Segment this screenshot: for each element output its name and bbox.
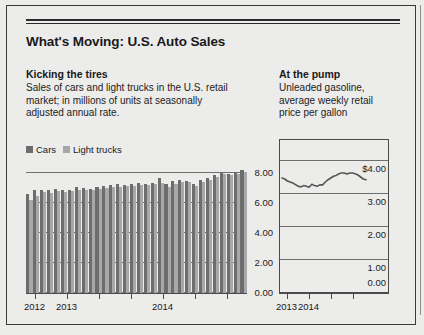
bar-group — [88, 158, 95, 293]
bar-y-tick-label: 0.00 — [253, 288, 274, 297]
bar-group — [157, 158, 164, 293]
bar-x-tick-label: 2013 — [56, 302, 77, 312]
line-x-tick-label: 2014 — [298, 302, 319, 312]
left-deck-line-2: market; in millions of units at seasonal… — [26, 95, 266, 108]
bar-group — [192, 158, 199, 293]
bar-group — [67, 158, 74, 293]
gas-price-line-series — [280, 140, 388, 292]
bar-y-tick-label: 6.00 — [253, 198, 274, 207]
bar-group — [233, 158, 240, 293]
bar-group — [143, 158, 150, 293]
bar-chart-y-axis: 0.002.004.006.008.00 — [247, 158, 273, 293]
bar-x-tick-label: 2014 — [152, 302, 173, 312]
bar-x-tick — [227, 294, 228, 299]
legend-swatch-cars-icon — [26, 146, 33, 153]
bar-group — [206, 158, 213, 293]
bar-group — [74, 158, 81, 293]
bar-group — [109, 158, 116, 293]
rule-thin — [26, 23, 400, 24]
bar-group — [102, 158, 109, 293]
bar-x-tick-label: 2012 — [24, 302, 45, 312]
right-edge-divider — [420, 5, 421, 315]
bar-group — [40, 158, 47, 293]
line-x-tick — [353, 294, 354, 299]
bar-group — [26, 158, 33, 293]
bar-x-tick — [131, 294, 132, 299]
bar-group — [95, 158, 102, 293]
left-deck-line-1: Sales of cars and light trucks in the U.… — [26, 82, 266, 95]
bar-group — [130, 158, 137, 293]
bar-group — [137, 158, 144, 293]
bar-x-tick — [195, 294, 196, 299]
left-deck-title: Kicking the tires — [26, 68, 266, 81]
top-rule — [26, 19, 400, 24]
left-panel-deck: Kicking the tires Sales of cars and ligh… — [26, 68, 266, 120]
bar-x-tick — [163, 294, 164, 299]
bar-chart-bars — [26, 158, 247, 293]
bar-group — [199, 158, 206, 293]
bar-group — [185, 158, 192, 293]
legend-label-light-trucks: Light trucks — [73, 145, 122, 154]
bar-group — [212, 158, 219, 293]
bar-x-tick — [67, 294, 68, 299]
line-x-tick — [309, 294, 310, 299]
bar-group — [164, 158, 171, 293]
bar-group — [219, 158, 226, 293]
right-deck-body: Unleaded gasoline, average weekly retail… — [279, 82, 403, 120]
infographic-page: What's Moving: U.S. Auto Sales Kicking t… — [0, 0, 424, 335]
legend-item-cars: Cars — [26, 145, 56, 154]
line-path — [282, 173, 366, 187]
line-x-tick — [331, 294, 332, 299]
line-x-tick-label: 2013 — [276, 302, 297, 312]
bar-axis-line — [26, 293, 247, 294]
right-deck-line-1: Unleaded gasoline, — [279, 82, 403, 95]
bar-group — [123, 158, 130, 293]
left-deck-line-3: adjusted annual rate. — [26, 107, 266, 120]
bar-group — [178, 158, 185, 293]
bar-x-tick — [35, 294, 36, 299]
right-deck-line-2: average weekly retail — [279, 95, 403, 108]
line-chart-plot: 0.001.002.003.00$4.00 — [279, 139, 389, 293]
line-chart-x-axis: 20132014 — [279, 293, 389, 317]
bar-group — [54, 158, 61, 293]
bar-group — [61, 158, 68, 293]
bar-chart-plot — [26, 158, 247, 293]
bar-y-tick-label: 2.00 — [253, 258, 274, 267]
bar-chart-x-axis: 201220132014 — [26, 293, 247, 317]
bar-group — [226, 158, 233, 293]
bar-group — [116, 158, 123, 293]
bar-chart-legend: Cars Light trucks — [26, 145, 122, 154]
right-deck-line-3: price per gallon — [279, 107, 403, 120]
right-deck-title: At the pump — [279, 68, 403, 81]
bar-group — [33, 158, 40, 293]
line-axis-line — [279, 293, 389, 294]
bar-y-tick-label: 4.00 — [253, 228, 274, 237]
bar-x-tick — [99, 294, 100, 299]
right-panel-deck: At the pump Unleaded gasoline, average w… — [279, 68, 403, 120]
page-title: What's Moving: U.S. Auto Sales — [26, 34, 225, 49]
bar-group — [81, 158, 88, 293]
line-x-tick — [287, 294, 288, 299]
legend-label-cars: Cars — [36, 145, 56, 154]
bar-y-tick-label: 8.00 — [253, 168, 274, 177]
bar-group — [171, 158, 178, 293]
bar-group — [150, 158, 157, 293]
legend-item-light-trucks: Light trucks — [63, 145, 122, 154]
infographic-frame: What's Moving: U.S. Auto Sales Kicking t… — [6, 5, 416, 325]
legend-swatch-light-trucks-icon — [63, 146, 70, 153]
bar-group — [240, 158, 247, 293]
left-deck-body: Sales of cars and light trucks in the U.… — [26, 82, 266, 120]
bar-group — [47, 158, 54, 293]
